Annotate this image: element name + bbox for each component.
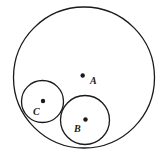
circle-a bbox=[14, 7, 155, 148]
center-a-point bbox=[81, 73, 85, 77]
center-c-point bbox=[41, 99, 45, 103]
label-c: C bbox=[33, 106, 40, 117]
label-a: A bbox=[89, 75, 97, 86]
label-b: B bbox=[73, 123, 81, 134]
circles-diagram: A C B bbox=[0, 0, 160, 155]
center-b-point bbox=[83, 117, 87, 121]
